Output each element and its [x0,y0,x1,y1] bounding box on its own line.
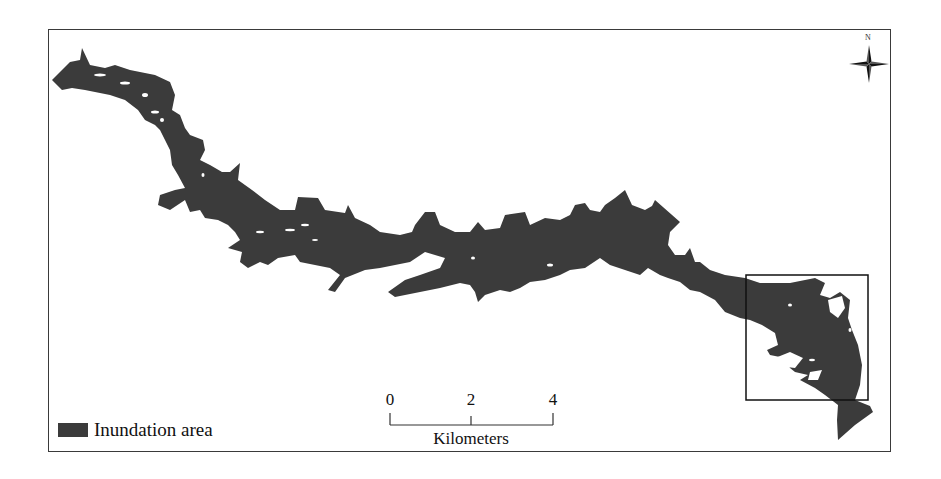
legend-swatch-inundation [58,423,88,437]
north-label: N [865,33,871,42]
scale-tick-label-4: 4 [549,390,558,410]
scale-unit-label: Kilometers [433,429,509,449]
scale-tick-label-2: 2 [467,390,476,410]
inundation-area-polygon [52,48,873,440]
scale-tick-label-0: 0 [386,390,395,410]
legend: Inundation area [58,420,213,440]
legend-label-inundation: Inundation area [94,420,213,440]
north-arrow-icon [849,45,889,83]
scale-bar [390,413,553,425]
